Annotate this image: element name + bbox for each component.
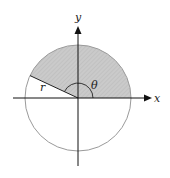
y-axis-label: y [74,11,82,24]
x-axis-arrow-icon [144,95,152,102]
angle-label: θ [91,79,98,92]
polar-sector-diagram: x y r θ [0,0,170,178]
radius-label: r [40,81,46,94]
x-axis-label: x [154,92,161,105]
y-axis-arrow-icon [75,26,82,34]
